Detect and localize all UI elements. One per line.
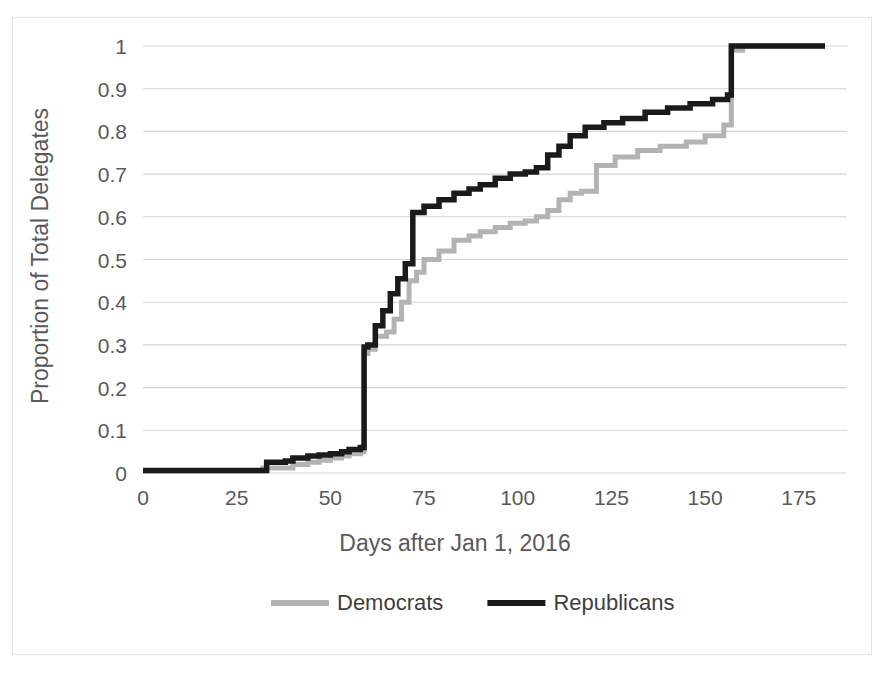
y-tick-label: 1	[115, 35, 127, 58]
x-tick-label: 150	[688, 486, 723, 509]
x-tick-label: 0	[137, 486, 149, 509]
series-group	[143, 46, 825, 471]
chart-legend: DemocratsRepublicans	[271, 590, 674, 615]
gridlines-group	[143, 46, 847, 473]
x-tick-label: 25	[225, 486, 248, 509]
y-tick-label: 0	[115, 462, 127, 485]
series-line-democrats	[143, 46, 825, 471]
y-axis-title: Proportion of Total Delegates	[27, 108, 53, 404]
x-axis-title: Days after Jan 1, 2016	[339, 530, 570, 556]
y-tick-label: 0.9	[98, 78, 127, 101]
x-tick-label: 125	[594, 486, 629, 509]
y-tick-label: 0.2	[98, 377, 127, 400]
x-tick-label: 50	[319, 486, 342, 509]
x-tick-label: 100	[500, 486, 535, 509]
x-axis-tick-labels: 0255075100125150175	[137, 486, 816, 509]
figure-canvas: 00.10.20.30.40.50.60.70.80.91 0255075100…	[0, 0, 886, 683]
x-tick-label: 75	[412, 486, 435, 509]
y-tick-label: 0.1	[98, 419, 127, 442]
y-tick-label: 0.4	[98, 291, 128, 314]
y-tick-label: 0.6	[98, 206, 127, 229]
legend-label-democrats: Democrats	[337, 590, 443, 615]
line-chart: 00.10.20.30.40.50.60.70.80.91 0255075100…	[0, 0, 886, 683]
x-tick-label: 175	[781, 486, 816, 509]
y-tick-label: 0.7	[98, 163, 127, 186]
legend-label-republicans: Republicans	[553, 590, 674, 615]
y-tick-label: 0.8	[98, 120, 127, 143]
y-tick-label: 0.5	[98, 249, 127, 272]
series-line-republicans	[143, 46, 825, 470]
y-axis-tick-labels: 00.10.20.30.40.50.60.70.80.91	[98, 35, 128, 485]
y-tick-label: 0.3	[98, 334, 127, 357]
